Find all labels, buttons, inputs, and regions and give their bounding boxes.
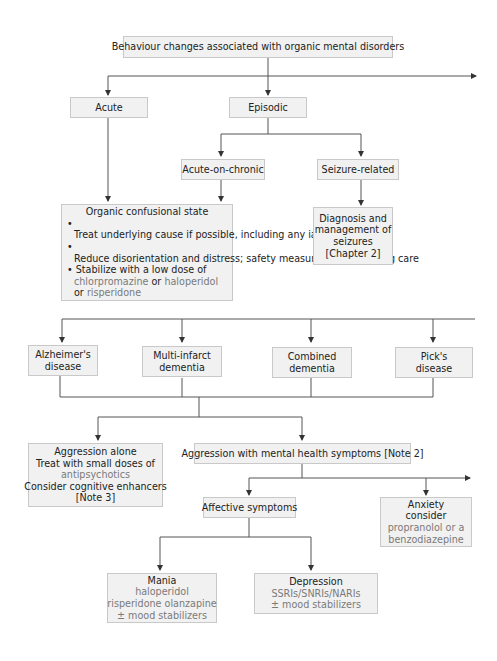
drug-benzodiazepine: benzodiazepine xyxy=(388,534,463,546)
seizure-related-label: Seizure-related xyxy=(322,164,395,176)
depression-node: Depression SSRIs/SNRIs/NARIs ± mood stab… xyxy=(254,573,378,614)
aggression-alone-line-4: Consider cognitive enhancers xyxy=(24,481,166,493)
seizure-line-2: management of xyxy=(315,224,392,236)
affective-label: Affective symptoms xyxy=(202,502,298,514)
picks-disease-node: Pick's disease xyxy=(395,347,473,378)
seizure-line-3: seizures xyxy=(333,236,372,248)
anxiety-title: Anxiety xyxy=(408,499,444,511)
aggression-alone-title: Aggression alone xyxy=(54,446,136,458)
organic-confusional-state-node: Organic confusional state • Treat underl… xyxy=(61,204,233,301)
ocs-bullet-3-text: Stabilize with a low dose of xyxy=(76,264,207,275)
aggression-alone-line-2: Treat with small doses of xyxy=(36,458,155,470)
or-text: or xyxy=(152,276,162,287)
anxiety-node: Anxiety consider propranolol or a benzod… xyxy=(380,497,472,547)
bullet-icon: • xyxy=(67,218,73,229)
seizure-line-4: [Chapter 2] xyxy=(326,248,381,260)
seizure-line-1: Diagnosis and xyxy=(319,213,387,225)
acute-on-chronic-node: Acute-on-chronic xyxy=(181,159,265,180)
bullet-icon: • xyxy=(67,264,73,275)
drug-haloperidol: haloperidol xyxy=(164,276,218,287)
seizure-management-node: Diagnosis and management of seizures [Ch… xyxy=(313,207,393,265)
drug-ssri-snri-nari: SSRIs/SNRIs/NARIs xyxy=(271,588,360,600)
alzheimers-line-1: Alzheimer's xyxy=(35,349,91,361)
drug-mood-stabilizers: ± mood stabilizers xyxy=(117,610,207,622)
picks-line-1: Pick's xyxy=(421,351,448,363)
acute-node: Acute xyxy=(70,97,148,118)
bullet-icon: • xyxy=(67,241,73,252)
aggression-mh-label: Aggression with mental health symptoms [… xyxy=(181,448,423,460)
drug-mood-stabilizers: ± mood stabilizers xyxy=(271,599,361,611)
drug-chlorpromazine: chlorpromazine xyxy=(74,276,148,287)
root-node: Behaviour changes associated with organi… xyxy=(123,36,393,58)
multi-infarct-line-1: Multi-infarct xyxy=(153,350,211,362)
drug-risperidone-olanzapine: risperidone olanzapine xyxy=(107,598,216,610)
drug-antipsychotics: antipsychotics xyxy=(61,469,130,481)
or-text: or xyxy=(74,287,84,298)
root-label: Behaviour changes associated with organi… xyxy=(112,41,405,53)
combined-line-1: Combined xyxy=(288,351,337,363)
acute-on-chronic-label: Acute-on-chronic xyxy=(182,164,263,176)
episodic-node: Episodic xyxy=(229,97,307,118)
ocs-bullet-2: • Reduce disorientation and distress; sa… xyxy=(67,241,227,264)
seizure-related-node: Seizure-related xyxy=(317,159,399,180)
multi-infarct-line-2: dementia xyxy=(159,362,205,374)
alzheimers-line-2: disease xyxy=(45,361,81,373)
aggression-mh-node: Aggression with mental health symptoms [… xyxy=(194,443,411,464)
anxiety-consider: consider xyxy=(406,510,447,522)
multi-infarct-node: Multi-infarct dementia xyxy=(142,346,222,377)
depression-title: Depression xyxy=(289,576,343,588)
ocs-bullet-3: • Stabilize with a low dose of chlorprom… xyxy=(67,264,227,299)
mania-node: Mania haloperidol risperidone olanzapine… xyxy=(107,573,217,623)
alzheimers-node: Alzheimer's disease xyxy=(28,345,98,376)
drug-risperidone: risperidone xyxy=(87,287,141,298)
acute-label: Acute xyxy=(95,102,122,114)
ocs-title: Organic confusional state xyxy=(67,206,227,218)
drug-propranolol: propranolol or a xyxy=(388,522,465,534)
episodic-label: Episodic xyxy=(248,102,288,114)
affective-symptoms-node: Affective symptoms xyxy=(203,497,296,518)
combined-dementia-node: Combined dementia xyxy=(272,347,352,378)
aggression-alone-node: Aggression alone Treat with small doses … xyxy=(28,443,163,507)
combined-line-2: dementia xyxy=(289,363,335,375)
ocs-bullet-1: • Treat underlying cause if possible, in… xyxy=(67,218,227,241)
picks-line-2: disease xyxy=(416,363,452,375)
drug-haloperidol: haloperidol xyxy=(135,586,189,598)
aggression-alone-note: [Note 3] xyxy=(76,492,115,504)
mania-title: Mania xyxy=(148,575,177,587)
